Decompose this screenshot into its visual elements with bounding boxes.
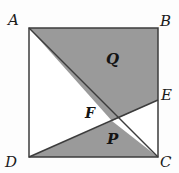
vertex-label-a: A: [8, 13, 19, 28]
geometry-canvas: [0, 0, 179, 173]
geometry-figure: A B C D E F Q P: [0, 0, 179, 173]
region-label-p: P: [107, 132, 118, 147]
vertex-label-c: C: [160, 155, 171, 170]
vertex-label-d: D: [5, 155, 17, 170]
region-label-q: Q: [106, 52, 119, 67]
vertex-label-e: E: [161, 88, 172, 103]
vertex-label-b: B: [160, 14, 171, 29]
point-label-f: F: [85, 106, 95, 120]
